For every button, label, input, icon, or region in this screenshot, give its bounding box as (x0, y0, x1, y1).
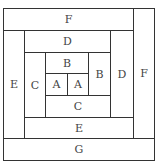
piece-a-left: A (45, 73, 68, 96)
piece-f-top: F (3, 8, 134, 31)
piece-b-right: B (88, 52, 111, 96)
piece-g-bottom: G (3, 138, 155, 161)
piece-e-bottom: E (24, 117, 134, 139)
piece-d-top: D (24, 30, 111, 53)
piece-f-right: F (133, 8, 155, 139)
piece-d-right: D (110, 30, 134, 118)
piece-c-left: C (24, 52, 46, 118)
piece-b-top: B (45, 52, 89, 74)
piece-a-right: A (67, 73, 89, 96)
piece-c-bottom: C (45, 95, 111, 118)
piece-e-left: E (3, 30, 25, 139)
